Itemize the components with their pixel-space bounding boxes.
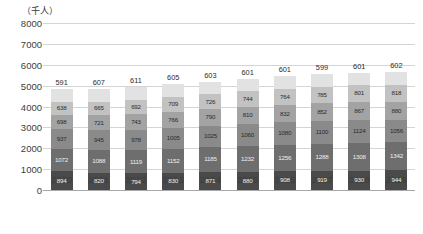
- bar-segment: 603603: [199, 82, 221, 95]
- bar-segment-value: 665: [94, 105, 104, 111]
- bar-segment: 1119: [125, 150, 147, 173]
- gridline: [43, 44, 415, 45]
- bar-top-value: 591: [51, 78, 73, 87]
- bar-segment: 785: [311, 87, 333, 103]
- bar-segment-value: 692: [131, 104, 141, 110]
- bar-segment: 1056: [385, 120, 407, 142]
- bar-segment: 591591: [51, 89, 73, 101]
- bar-segment-value: 867: [354, 108, 364, 114]
- bar-segment: 665: [88, 102, 110, 116]
- bar-segment: 852: [311, 103, 333, 121]
- bar-top-value: 603: [199, 71, 221, 80]
- bar-segment-value: 1308: [353, 154, 366, 160]
- bar-segment-value: 871: [206, 178, 216, 184]
- bar-segment-value: 726: [206, 99, 216, 105]
- bar-segment-value: 1342: [390, 153, 403, 159]
- bar-segment-value: 1025: [204, 133, 217, 139]
- bar-segment: 1308: [348, 143, 370, 170]
- y-axis-tick-label: 3000: [6, 122, 42, 133]
- bar-segment: 726: [199, 94, 221, 109]
- bar-group: 91912881100852785599599: [311, 74, 333, 190]
- bar-segment-value: 744: [243, 96, 253, 102]
- y-axis-tick-label: 8000: [6, 18, 42, 29]
- bar-segment: 1100: [311, 121, 333, 144]
- bar-segment: 1124: [348, 120, 370, 143]
- bar-top-value: 601: [237, 68, 259, 77]
- bar-segment: 1185: [199, 147, 221, 172]
- bar-segment: 607607: [88, 89, 110, 102]
- bar-segment: 602602: [385, 72, 407, 85]
- bar-top-value: 605: [162, 73, 184, 82]
- bar-segment-value: 978: [131, 137, 141, 143]
- bar-segment: 1256: [274, 145, 296, 171]
- bar-segment: 601601: [348, 73, 370, 86]
- bar-segment-value: 880: [392, 108, 402, 114]
- bar-segment: 790: [199, 109, 221, 125]
- y-axis-tick-label: 5000: [6, 80, 42, 91]
- bar-segment-value: 818: [392, 90, 402, 96]
- bar-segment: 1342: [385, 142, 407, 170]
- bar-segment-value: 698: [57, 119, 67, 125]
- bar-segment-value: 721: [94, 120, 104, 126]
- bar-segment-value: 1080: [278, 130, 291, 136]
- bar-segment-value: 1232: [241, 156, 254, 162]
- gridline: [43, 23, 415, 24]
- bar-segment: 1005: [162, 128, 184, 149]
- bar-segment: 1088: [88, 150, 110, 173]
- bar-segment: 611611: [125, 87, 147, 100]
- y-axis-tick-label: 2000: [6, 143, 42, 154]
- bar-segment-value: 764: [280, 94, 290, 100]
- bar-group: 90812561080832764601601: [274, 76, 296, 190]
- bar-segment: 601601: [274, 76, 296, 89]
- bar-segment: 978: [125, 130, 147, 150]
- bar-top-value: 601: [274, 65, 296, 74]
- bar-segment-value: 766: [168, 117, 178, 123]
- bar-segment: 709: [162, 97, 184, 112]
- bar-segment: 945: [88, 130, 110, 150]
- bar-segment-value: 709: [168, 101, 178, 107]
- bar-segment: 605605: [162, 84, 184, 97]
- bar-segment: 1152: [162, 149, 184, 173]
- bar-segment-value: 638: [57, 105, 67, 111]
- bar-segment: 692: [125, 100, 147, 114]
- bar-segment: 1072: [51, 149, 73, 171]
- bar-top-value: 602: [385, 61, 407, 70]
- bar-segment: 766: [162, 112, 184, 128]
- bar-segment-value: 794: [131, 179, 141, 185]
- bar-segment: 721: [88, 115, 110, 130]
- bar-segment-value: 937: [57, 136, 67, 142]
- y-axis-tick-label: 7000: [6, 38, 42, 49]
- bar-segment-value: 830: [168, 178, 178, 184]
- bar-segment: 832: [274, 105, 296, 122]
- bar-top-value: 607: [88, 78, 110, 87]
- bar-segment-value: 919: [317, 177, 327, 183]
- y-axis-tick-label: 6000: [6, 59, 42, 70]
- bar-segment-value: 1288: [316, 154, 329, 160]
- bar-segment-value: 810: [243, 112, 253, 118]
- bar-segment-value: 945: [94, 137, 104, 143]
- axis-baseline: [43, 190, 415, 191]
- bar-segment: 1080: [274, 122, 296, 145]
- bar-segment-value: 743: [131, 119, 141, 125]
- bar-segment-value: 790: [206, 114, 216, 120]
- plot-area: 8941072937698638591591820108894572166560…: [43, 23, 415, 190]
- bar-segment: 801: [348, 85, 370, 102]
- bar-segment: 638: [51, 102, 73, 115]
- bar-segment: 764: [274, 89, 296, 105]
- bar-segment-value: 852: [317, 109, 327, 115]
- bar-segment-value: 1072: [55, 157, 68, 163]
- bar-segment-value: 1185: [204, 156, 217, 162]
- bar-segment: 744: [237, 91, 259, 107]
- bar-top-value: 601: [348, 62, 370, 71]
- bar-segment: 867: [348, 102, 370, 120]
- bar-segment-value: 801: [354, 90, 364, 96]
- bar-segment-value: 785: [317, 92, 327, 98]
- bar-segment-value: 832: [280, 111, 290, 117]
- bar-segment-value: 1152: [167, 158, 180, 164]
- bar-segment: 1025: [199, 126, 221, 147]
- bar-segment-value: 944: [392, 177, 402, 183]
- bar-segment: 810: [237, 107, 259, 124]
- bar-segment: 698: [51, 115, 73, 130]
- bar-segment-value: 880: [243, 178, 253, 184]
- bar-segment-value: 1124: [353, 128, 366, 134]
